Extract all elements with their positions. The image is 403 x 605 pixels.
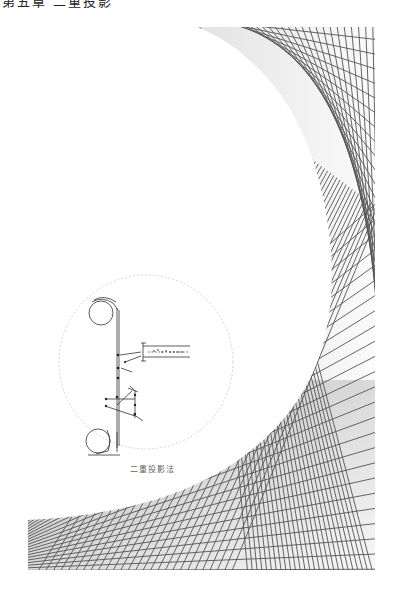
inset-dashed-circle — [59, 275, 233, 449]
bottom-reel-icon — [86, 429, 110, 453]
top-reel-icon — [89, 301, 113, 325]
hyperbolic-mesh-surface — [0, 0, 403, 605]
diagram-caption: 二重投影法 — [122, 463, 182, 474]
diagram-points — [105, 349, 183, 415]
page-illustration — [0, 0, 403, 605]
projection-diagram — [86, 297, 190, 455]
